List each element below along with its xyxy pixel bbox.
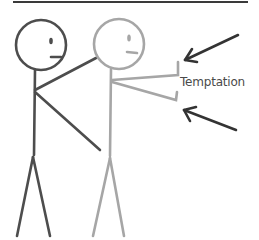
dark-figure-leg-right (33, 157, 50, 236)
dark-figure-head (16, 20, 66, 70)
light-figure-arm-lower (112, 82, 177, 100)
dark-figure-leg-left (17, 157, 33, 236)
stick-figure-illustration (0, 0, 259, 240)
light-figure-leg-left (93, 158, 110, 236)
restraining-figure (16, 20, 100, 236)
dark-figure-eye (49, 38, 53, 44)
temptation-label: Temptation (180, 75, 245, 89)
tempted-figure (93, 19, 178, 236)
dark-figure-arm-reaching (35, 58, 96, 90)
light-figure-mouth (127, 52, 137, 53)
light-figure-head (94, 19, 144, 69)
light-figure-leg-right (110, 158, 124, 236)
light-figure-arm-upper (112, 62, 178, 80)
lower-arrow-shaft (184, 110, 236, 130)
upper-arrow-shaft (185, 35, 238, 60)
dark-figure-torso (34, 70, 35, 155)
dark-figure-arm-down (35, 92, 100, 150)
light-figure-eye (127, 35, 131, 42)
